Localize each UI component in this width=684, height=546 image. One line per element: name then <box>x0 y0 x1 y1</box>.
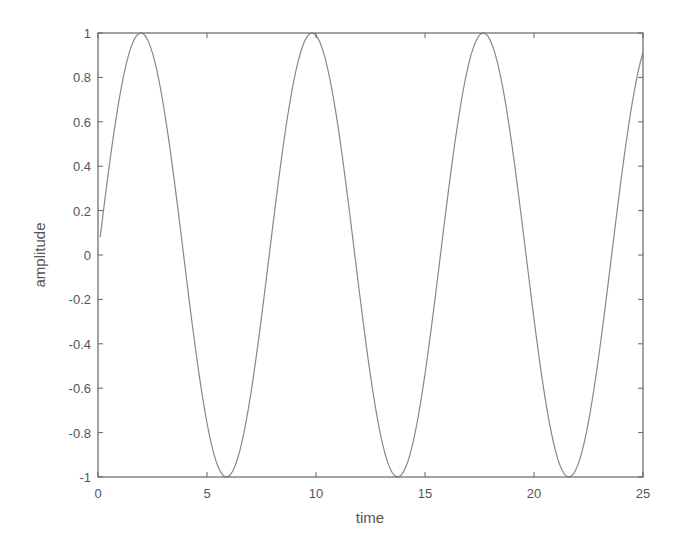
y-tick-label: 0.8 <box>73 70 91 85</box>
y-tick-label: -1 <box>79 470 91 485</box>
y-tick-label: -0.4 <box>69 337 91 352</box>
x-axis-label: time <box>356 509 384 526</box>
y-tick-label: 0.6 <box>73 115 91 130</box>
chart: 0510152025 -1-0.8-0.6-0.4-0.200.20.40.60… <box>0 0 684 546</box>
x-tick-label: 15 <box>418 486 432 501</box>
x-tick-label: 10 <box>309 486 323 501</box>
y-tick-label: -0.8 <box>69 426 91 441</box>
y-tick-label: -0.2 <box>69 292 91 307</box>
y-tick-label: 0.4 <box>73 159 91 174</box>
x-tick-label: 25 <box>636 486 650 501</box>
x-tick-label: 0 <box>94 486 101 501</box>
y-tick-label: -0.6 <box>69 381 91 396</box>
x-tick-label: 5 <box>203 486 210 501</box>
x-tick-label: 20 <box>527 486 541 501</box>
y-tick-label: 0.2 <box>73 204 91 219</box>
y-tick-label: 1 <box>84 26 91 41</box>
y-axis-label: amplitude <box>31 222 48 287</box>
chart-background <box>0 0 684 546</box>
y-tick-label: 0 <box>84 248 91 263</box>
